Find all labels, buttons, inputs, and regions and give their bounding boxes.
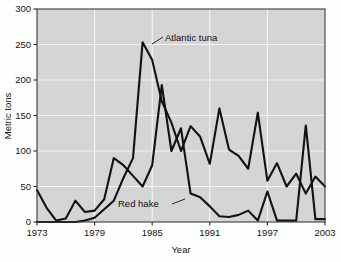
x-tick-label-1985: 1985 xyxy=(142,227,163,238)
x-tick-label-1991: 1991 xyxy=(199,227,220,238)
x-tick-label-1979: 1979 xyxy=(84,227,105,238)
y-tick-label-150: 150 xyxy=(15,110,31,121)
y-axis: 050100150200250300 xyxy=(15,3,37,227)
x-tick-label-1997: 1997 xyxy=(257,227,278,238)
atlantic-tuna-annotation-label: Atlantic tuna xyxy=(165,32,218,43)
y-tick-label-0: 0 xyxy=(26,216,31,227)
y-tick-label-100: 100 xyxy=(15,145,31,156)
red-hake-annotation-label: Red hake xyxy=(118,198,159,209)
x-tick-label-2003: 2003 xyxy=(314,227,335,238)
y-tick-label-250: 250 xyxy=(15,39,31,50)
y-tick-label-50: 50 xyxy=(20,181,31,192)
x-tick-label-1973: 1973 xyxy=(26,227,47,238)
y-tick-label-300: 300 xyxy=(15,3,31,14)
x-axis: 197319791985199119972003 xyxy=(26,222,335,238)
y-tick-label-200: 200 xyxy=(15,74,31,85)
y-axis-title: Metric tons xyxy=(2,93,13,140)
line-chart: 050100150200250300 197319791985199119972… xyxy=(0,0,341,262)
x-axis-title: Year xyxy=(171,244,190,255)
chart-figure: 050100150200250300 197319791985199119972… xyxy=(0,0,341,262)
